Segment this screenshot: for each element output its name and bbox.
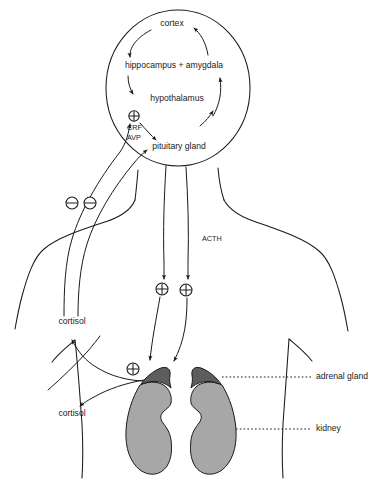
label-hypothalamus: hypothalamus [150,93,204,103]
left-kidney-group [126,367,172,474]
plus-sign-hypothalamus [129,111,139,121]
label-adrenal-gland: adrenal gland [316,371,368,381]
arrow-cortex-to-hippocampus [130,30,151,57]
acth-pathways: ACTH [164,166,222,279]
acth-line-left [164,166,166,279]
acth-line-right [186,167,188,279]
acth-to-adrenals [150,297,187,361]
label-hippocampus-amygdala: hippocampus + amygdala [125,60,223,70]
arrow-ascending-to-hippocampus [213,78,221,116]
label-kidney: kidney [316,423,342,433]
brain-circuit-arrows [128,28,221,140]
label-pituitary-gland: pituitary gland [152,141,206,151]
diagram-canvas: cortex hippocampus + amygdala hypothalam… [0,0,382,495]
minus-sign-left [66,197,78,209]
right-kidney [190,382,236,474]
label-cortex: cortex [160,18,184,28]
arrow-hippocampus-to-hypothalamus [128,76,133,94]
hpa-axis-diagram: cortex hippocampus + amygdala hypothalam… [0,0,382,495]
left-kidney [126,382,172,474]
plus-sign-adrenal [127,363,139,375]
label-avp: AVP [127,133,141,142]
label-cortisol-lower: cortisol [58,408,85,418]
label-cortisol-upper: cortisol [58,316,85,326]
label-acth: ACTH [202,234,222,243]
feedback-line-to-pituitary [78,150,147,316]
arrow-hypothalamus-to-pituitary [140,123,156,140]
minus-sign-right [84,197,96,209]
right-kidney-group [190,367,236,474]
arrow-ascending-to-cortex [194,28,208,55]
acth-arrow-left-adrenal [150,297,160,360]
plus-sign-acth-right [180,284,192,296]
acth-arrow-right-adrenal [174,298,187,361]
plus-sign-acth-left [156,283,168,295]
organ-labels: adrenal gland kidney [316,371,368,433]
arrow-ascending-lower [200,111,213,126]
negative-feedback-lines: cortisol [58,124,147,326]
